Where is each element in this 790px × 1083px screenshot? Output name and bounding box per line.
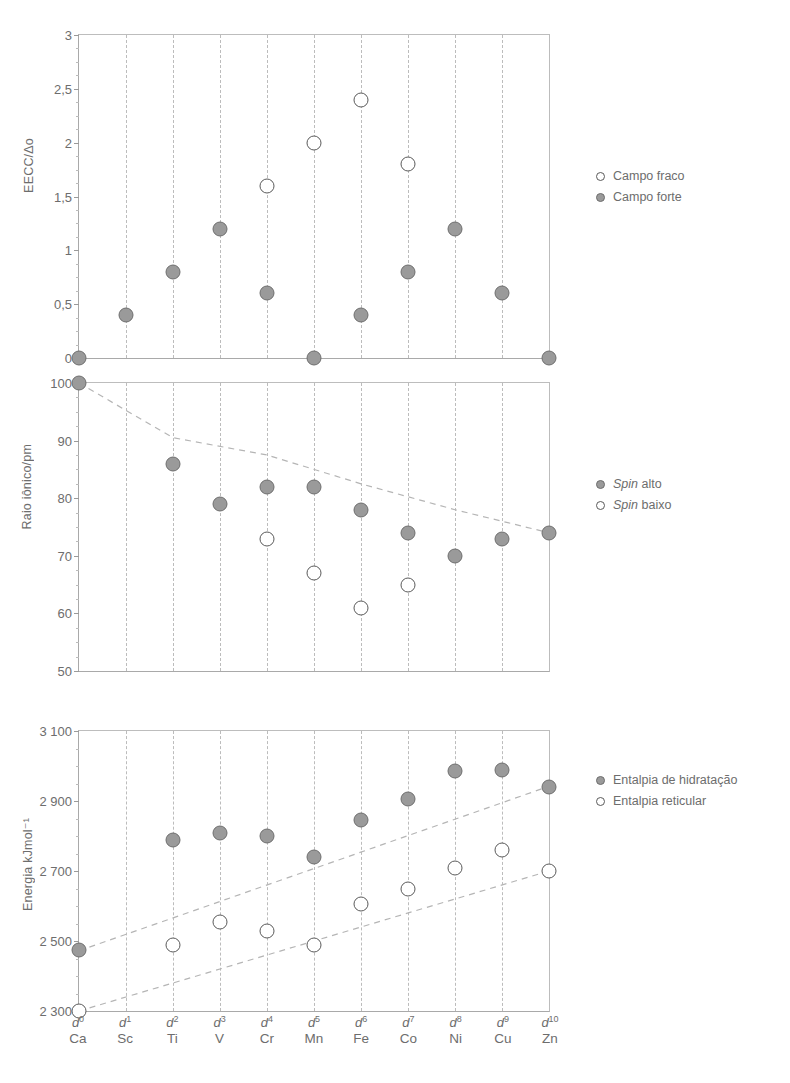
data-point-raio-s1-Cr: [260, 531, 275, 546]
gridline-Ti: [173, 35, 174, 358]
filled-circle-icon: [596, 776, 605, 785]
trendline-layer-energia: [79, 731, 549, 1011]
gridline-V: [220, 383, 221, 671]
y-tick-mark-raio-3: [74, 498, 79, 499]
x-tick-V: d3V: [200, 1012, 240, 1047]
y-minor-tick-eecc: [76, 116, 79, 117]
y-minor-tick-eecc: [76, 183, 79, 184]
data-point-energia-s1-Ti: [166, 937, 181, 952]
legend-item[interactable]: Spin alto: [596, 474, 671, 495]
data-point-energia-s0-Ca: [72, 942, 87, 957]
data-point-eecc-s1-Co: [401, 264, 416, 279]
y-minor-tick-raio: [76, 397, 79, 398]
y-minor-tick-eecc: [76, 237, 79, 238]
y-tick-mark-energia-3: [74, 801, 79, 802]
data-point-energia-s1-Cr: [260, 923, 275, 938]
x-tick-orbital-Ca: d0: [58, 1012, 98, 1030]
data-point-raio-s1-Fe: [354, 600, 369, 615]
data-point-energia-s0-Fe: [354, 813, 369, 828]
legend-item[interactable]: Entalpia reticular: [596, 791, 737, 812]
gridline-Fe: [361, 383, 362, 671]
gridline-Fe: [361, 731, 362, 1011]
legend-item[interactable]: Spin baixo: [596, 495, 671, 516]
x-tick-Mn: d5Mn: [294, 1012, 334, 1047]
y-tick-mark-raio-2: [74, 556, 79, 557]
x-tick-Ti: d2Ti: [152, 1012, 192, 1047]
legend-eecc: Campo fracoCampo forte: [596, 166, 685, 208]
data-point-raio-s0-Fe: [354, 502, 369, 517]
y-minor-tick-eecc: [76, 170, 79, 171]
x-tick-element-Sc: Sc: [105, 1030, 145, 1047]
data-point-raio-s0-Zn: [542, 525, 557, 540]
x-tick-element-Mn: Mn: [294, 1030, 334, 1047]
x-tick-orbital-Sc: d1: [105, 1012, 145, 1030]
legend-item[interactable]: Entalpia de hidratação: [596, 770, 737, 791]
data-point-energia-s1-Co: [401, 881, 416, 896]
x-tick-element-Ti: Ti: [152, 1030, 192, 1047]
y-minor-tick-eecc: [76, 223, 79, 224]
data-point-energia-s1-V: [213, 914, 228, 929]
tendencia-raio: [79, 383, 549, 533]
legend-item-label: Campo forte: [613, 187, 682, 208]
y-minor-tick-raio: [76, 455, 79, 456]
y-minor-tick-eecc: [76, 318, 79, 319]
x-tick-orbital-Ni: d8: [436, 1012, 476, 1030]
y-axis-title-eecc: EECC/Δo: [22, 138, 36, 193]
y-tick-mark-energia-2: [74, 871, 79, 872]
x-tick-element-Cu: Cu: [483, 1030, 523, 1047]
open-circle-icon: [596, 172, 605, 181]
y-minor-tick-eecc: [76, 102, 79, 103]
data-point-energia-s1-Cu: [495, 843, 510, 858]
data-point-energia-s0-Ti: [166, 832, 181, 847]
y-minor-tick-energia: [76, 994, 79, 995]
y-minor-tick-raio: [76, 642, 79, 643]
y-tick-mark-energia-4: [74, 731, 79, 732]
y-minor-tick-raio: [76, 484, 79, 485]
x-tick-orbital-Zn: d10: [530, 1012, 570, 1030]
y-minor-tick-raio: [76, 541, 79, 542]
gridline-Cu: [502, 383, 503, 671]
x-tick-orbital-Cr: d4: [247, 1012, 287, 1030]
gridline-Co: [408, 731, 409, 1011]
y-minor-tick-raio: [76, 513, 79, 514]
gridline-Ni: [455, 35, 456, 358]
data-point-eecc-s1-Fe: [354, 307, 369, 322]
y-tick-mark-eecc-2: [74, 250, 79, 251]
data-point-eecc-s1-Cr: [260, 286, 275, 301]
x-tick-Cu: d9Cu: [483, 1012, 523, 1047]
data-point-raio-s0-Ca: [72, 376, 87, 391]
y-minor-tick-raio: [76, 412, 79, 413]
y-minor-tick-energia: [76, 819, 79, 820]
y-minor-tick-eecc: [76, 156, 79, 157]
x-tick-orbital-Fe: d6: [341, 1012, 381, 1030]
gridline-Sc: [126, 383, 127, 671]
gridline-Mn: [314, 731, 315, 1011]
x-tick-Cr: d4Cr: [247, 1012, 287, 1047]
data-point-raio-s1-Co: [401, 577, 416, 592]
x-tick-Zn: d10Zn: [530, 1012, 570, 1047]
data-point-eecc-s1-Sc: [119, 307, 134, 322]
data-point-eecc-s0-Mn: [307, 135, 322, 150]
y-tick-mark-eecc-1: [74, 304, 79, 305]
y-minor-tick-eecc: [76, 277, 79, 278]
legend-item[interactable]: Campo fraco: [596, 166, 685, 187]
chart-panel-raio: Raio iônico/pm 5060708090100: [0, 372, 790, 684]
gridline-Cr: [267, 383, 268, 671]
legend-energia: Entalpia de hidrataçãoEntalpia reticular: [596, 770, 737, 812]
data-point-energia-s0-Co: [401, 792, 416, 807]
y-minor-tick-raio: [76, 585, 79, 586]
gridline-Cr: [267, 35, 268, 358]
data-point-energia-s1-Zn: [542, 864, 557, 879]
data-point-energia-s0-V: [213, 825, 228, 840]
y-minor-tick-raio: [76, 657, 79, 658]
gridline-Co: [408, 35, 409, 358]
x-tick-element-Ca: Ca: [58, 1030, 98, 1047]
gridline-Ti: [173, 383, 174, 671]
legend-item[interactable]: Campo forte: [596, 187, 685, 208]
x-tick-element-Ni: Ni: [436, 1030, 476, 1047]
data-point-eecc-s1-Ti: [166, 264, 181, 279]
gridline-Zn: [549, 35, 550, 358]
data-point-energia-s0-Ni: [448, 764, 463, 779]
gridline-V: [220, 35, 221, 358]
legend-item-label: Spin baixo: [613, 495, 671, 516]
